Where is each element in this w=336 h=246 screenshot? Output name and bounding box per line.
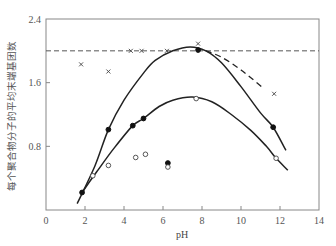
x-axis-label: pH: [176, 229, 188, 240]
open-circle-marker: [106, 163, 111, 168]
x-tick-label: 6: [161, 215, 166, 226]
open-circle-marker: [133, 155, 138, 160]
cross-marker: [196, 42, 200, 46]
cross-marker: [106, 70, 110, 74]
open-circle-marker: [91, 173, 96, 178]
x-tick-label: 10: [236, 215, 246, 226]
x-tick-label: 2: [83, 215, 88, 226]
x-tick-label: 12: [275, 215, 285, 226]
y-tick-label: 1.6: [29, 77, 42, 88]
x-tick-label: 14: [314, 215, 324, 226]
chart: 02468101214 0.81.62.4 pH 每个聚合物分子的平均末端基团数: [0, 0, 336, 246]
y-tick-label: 0.8: [29, 141, 42, 152]
open-circle-marker: [143, 152, 148, 157]
upper-fit-curve: [77, 47, 286, 204]
filled-circle-marker: [80, 190, 85, 195]
data-markers: [79, 42, 278, 195]
open-circle-marker: [166, 165, 171, 170]
x-tick-label: 8: [200, 215, 205, 226]
filled-circle-marker: [196, 48, 201, 53]
x-axis-ticks: 02468101214: [44, 206, 325, 226]
cross-marker: [79, 62, 83, 66]
x-tick-label: 4: [122, 215, 127, 226]
filled-circle-marker: [271, 125, 276, 130]
fit-curves: [77, 47, 288, 204]
lower-fit-curve: [82, 97, 288, 193]
open-circle-marker: [194, 96, 199, 101]
y-axis-ticks: 0.81.62.4: [29, 14, 51, 152]
filled-circle-marker: [130, 123, 135, 128]
y-axis-label: 每个聚合物分子的平均末端基团数: [6, 41, 17, 191]
filled-circle-marker: [141, 116, 146, 121]
open-circle-marker: [274, 156, 279, 161]
x-tick-label: 0: [44, 215, 49, 226]
cross-marker: [272, 92, 276, 96]
filled-circle-marker: [106, 127, 111, 132]
y-tick-label: 2.4: [29, 14, 42, 25]
